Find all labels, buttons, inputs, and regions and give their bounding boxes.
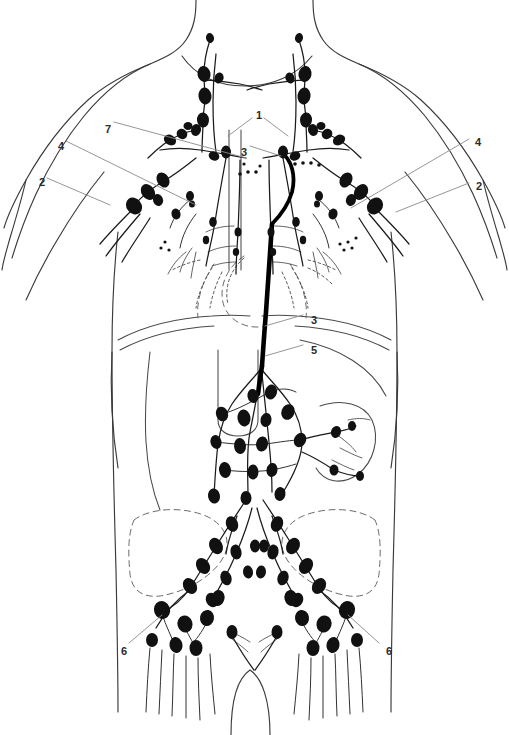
label-7: 7 — [105, 124, 111, 135]
vessel-groin-left-vessel — [232, 636, 254, 670]
lymph-node — [205, 32, 215, 43]
lymph-node — [330, 465, 339, 476]
lymph-node — [317, 122, 326, 130]
vessel-chest-fine-right-1 — [275, 226, 303, 232]
leader-3-mid — [265, 315, 303, 326]
vessel-thigh-left-1 — [146, 648, 150, 712]
vessel-venous-angle-right — [263, 149, 349, 159]
vessel-thoracic-left-2 — [236, 160, 240, 274]
vessel-chest-dotted-right-1 — [308, 260, 336, 270]
vessel-arm-left-lymph-3 — [122, 218, 150, 262]
small-lymph-dot — [238, 172, 242, 176]
lymph-node — [207, 488, 221, 505]
vessel-breast-fine-left-3 — [191, 252, 196, 278]
vessel-lung-dotted-left-2 — [210, 272, 222, 308]
small-lymph-dot — [159, 246, 162, 249]
label-3-mid: 3 — [311, 315, 317, 326]
lymph-node — [272, 625, 283, 639]
small-lymph-dot — [301, 161, 305, 165]
body-outline-head-neck-left — [4, 0, 196, 228]
body-outline-arm-left-outer — [2, 180, 26, 270]
vessel-intercostal-left-2 — [180, 214, 196, 248]
anatomical-diagram-canvas — [0, 0, 509, 735]
vessel-lung-dotted-right-2 — [282, 272, 294, 308]
lymph-node — [250, 540, 260, 553]
lymph-node — [162, 132, 178, 147]
lymph-node — [213, 71, 225, 84]
lymph-node — [294, 32, 304, 43]
lymph-node — [180, 575, 200, 596]
small-lymph-dot — [338, 242, 341, 245]
lymph-node — [315, 614, 334, 634]
node-group-cervical-left — [162, 32, 225, 147]
lymph-node — [356, 471, 364, 481]
organ-abdomen-outer — [145, 352, 160, 510]
lymph-node — [337, 170, 355, 190]
organ-diaphragm-line2-right — [295, 326, 389, 350]
vessel-chest-fine-left-1 — [206, 226, 234, 232]
vessel-thigh-left-2 — [159, 650, 162, 714]
vessel-thigh-right-5 — [309, 658, 311, 720]
label-3-top: 3 — [241, 147, 247, 158]
lymph-node — [279, 402, 297, 422]
small-lymph-dot — [293, 162, 297, 166]
leader-7 — [114, 122, 246, 158]
lymph-node — [199, 609, 216, 627]
lymph-node — [209, 434, 223, 450]
vessel-thigh-left-6 — [210, 654, 215, 714]
leader-4-right — [351, 139, 469, 208]
node-group-para-aortic-upper — [207, 383, 364, 505]
lymph-node — [184, 122, 193, 130]
lymph-node — [214, 405, 230, 423]
lymph-node — [296, 87, 311, 106]
node-group-axillary-left — [123, 170, 194, 220]
lymph-vessel-group — [100, 40, 409, 720]
vessel-kidney-fine-1 — [336, 434, 356, 452]
vessel-lung-dotted-left-1 — [196, 268, 212, 308]
lymph-node — [270, 248, 276, 256]
small-lymph-dot — [342, 248, 345, 251]
small-lymph-dot — [309, 161, 313, 165]
small-lymph-dot — [350, 246, 353, 249]
cisterna-chyli — [258, 366, 262, 394]
small-lymph-dot — [346, 240, 349, 243]
lymph-node — [197, 87, 212, 106]
lymph-node — [151, 599, 172, 621]
lymph-node — [259, 412, 272, 428]
vessel-cervical-chain-right-b — [293, 54, 296, 152]
small-lymph-dot-group — [159, 161, 357, 251]
label-4-left: 4 — [58, 141, 64, 152]
label-6-left: 6 — [121, 646, 127, 657]
lymph-node — [284, 71, 296, 84]
vessel-abdominal-cross-3 — [225, 464, 296, 472]
lymph-node — [203, 236, 209, 244]
vessel-thigh-right-2 — [347, 650, 350, 714]
leader-2-right — [396, 183, 469, 212]
lymph-node — [283, 535, 302, 556]
lymph-node — [229, 544, 243, 561]
vessel-kidney-fine-2 — [340, 448, 362, 458]
lymph-node — [351, 633, 363, 647]
body-outline-torso-right — [391, 232, 397, 712]
leader-1-right — [264, 118, 288, 136]
lymph-node — [314, 200, 320, 207]
thoracic-duct-arch — [272, 152, 294, 224]
small-lymph-dot — [258, 164, 261, 167]
body-outline-crotch — [231, 670, 270, 735]
lymph-node — [233, 438, 246, 455]
small-lymph-dot — [242, 162, 245, 165]
lymph-node — [268, 228, 275, 237]
vessel-chest-fine-left-2 — [208, 246, 236, 252]
body-outline-arm-right-outer — [483, 180, 507, 270]
lymph-node — [146, 633, 158, 647]
dotted-vessel-group — [172, 258, 336, 308]
small-lymph-dot — [163, 240, 166, 243]
vessel-venous-angle-left — [160, 149, 246, 159]
label-4-right: 4 — [475, 137, 481, 148]
lymph-node — [259, 540, 269, 553]
lymph-node — [300, 236, 306, 244]
vessel-kidney-fine-4 — [348, 419, 370, 421]
leader-2-left — [47, 178, 110, 205]
lymph-node — [233, 248, 239, 256]
lymph-node — [154, 170, 172, 190]
